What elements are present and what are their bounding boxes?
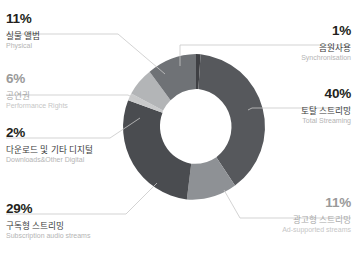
donut-slices bbox=[123, 54, 265, 200]
callout-performance-rights-label-ko: 공연권 bbox=[6, 92, 68, 102]
callout-downloads-label-en: Downloads&Other Digital bbox=[6, 156, 93, 164]
chart-page: 11% 실물 앨범 Physical 6% 공연권 Performance Ri… bbox=[0, 0, 357, 256]
callout-total-streaming-label-en: Total Streaming bbox=[301, 117, 351, 125]
callout-physical-label-en: Physical bbox=[6, 42, 40, 50]
callout-ad-supported[interactable]: 11% 광고형 스트리밍 Ad-supported streams bbox=[282, 196, 351, 234]
callout-downloads[interactable]: 2% 다운로드 및 기타 디지털 Downloads&Other Digital bbox=[6, 126, 93, 164]
callout-total-streaming-label-ko: 토탈 스트리밍 bbox=[301, 107, 351, 117]
callout-performance-rights-percent: 6% bbox=[6, 72, 68, 86]
callout-ad-supported-label-en: Ad-supported streams bbox=[282, 226, 351, 234]
callout-physical-percent: 11% bbox=[6, 12, 40, 26]
callout-performance-rights-label-en: Performance Rights bbox=[6, 102, 68, 110]
callout-synchronisation-label-en: Synchronisation bbox=[301, 54, 351, 62]
callout-downloads-label-ko: 다운로드 및 기타 디지털 bbox=[6, 146, 93, 156]
callout-physical-label-ko: 실물 앨범 bbox=[6, 32, 40, 42]
callout-total-streaming[interactable]: 40% 토탈 스트리밍 Total Streaming bbox=[301, 87, 351, 125]
callout-ad-supported-label-ko: 광고형 스트리밍 bbox=[282, 216, 351, 226]
callout-total-streaming-percent: 40% bbox=[301, 87, 351, 101]
callout-subscription-label-en: Subscription audio streams bbox=[6, 232, 90, 240]
callout-downloads-percent: 2% bbox=[6, 126, 93, 140]
callout-synchronisation-label-ko: 음원사용 bbox=[301, 44, 351, 54]
callout-physical[interactable]: 11% 실물 앨범 Physical bbox=[6, 12, 40, 50]
callout-subscription-percent: 29% bbox=[6, 202, 90, 216]
callout-performance-rights[interactable]: 6% 공연권 Performance Rights bbox=[6, 72, 68, 110]
callout-subscription[interactable]: 29% 구독형 스트리밍 Subscription audio streams bbox=[6, 202, 90, 240]
slice-subscription[interactable] bbox=[123, 100, 191, 199]
callout-subscription-label-ko: 구독형 스트리밍 bbox=[6, 222, 90, 232]
callout-synchronisation[interactable]: 1% 음원사용 Synchronisation bbox=[301, 24, 351, 62]
callout-ad-supported-percent: 11% bbox=[282, 196, 351, 210]
callout-synchronisation-percent: 1% bbox=[301, 24, 351, 38]
